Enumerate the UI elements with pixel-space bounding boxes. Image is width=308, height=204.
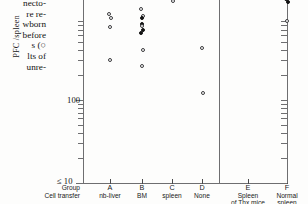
scatter-point [108,58,112,62]
group-sublabel: spleen [253,199,308,204]
scatter-point [139,7,143,11]
scatter-point [109,16,113,20]
right-axis-tick [281,60,287,61]
right-axis-tick [281,118,287,119]
x-axis-group-label-d: DNone [176,184,228,200]
right-axis-line [287,0,288,183]
y-axis-floor-label: ≤ 10 [57,176,72,186]
y-axis-line [83,0,84,183]
y-axis-tick-label: 100 [58,95,80,105]
scatter-point [286,0,290,4]
caption-line: necto- [0,0,46,9]
y-axis-tick [78,158,84,159]
y-axis-tick [78,113,84,114]
figure-panel: necto-re re-wbornbefores (○lts ofunre- P… [0,0,308,204]
scatter-point [200,46,204,50]
y-axis-tick [78,30,84,31]
y-axis-tick [78,42,84,43]
right-axis-tick [281,104,287,105]
y-axis-title: PFC /spleen [12,8,21,66]
y-axis-tick [78,143,84,144]
scatter-point [107,12,111,16]
scatter-point [139,31,143,35]
right-axis-tick [281,143,287,144]
caption-line: before [0,30,46,41]
scatter-point [140,64,144,68]
caption-line: s (○ [0,40,46,51]
right-axis-tick [281,25,287,26]
right-axis-tick [281,42,287,43]
group-letter: F [261,184,308,192]
scatter-point [141,48,145,52]
y-axis-tick [78,50,84,51]
scatter-point [108,25,112,29]
y-axis-tick [78,35,84,36]
right-axis-tick [281,100,287,101]
y-axis-tick [78,133,84,134]
caption-line: lts of [0,51,46,62]
scatter-point [171,0,175,3]
caption-text-fragment: necto-re re-wbornbefores (○lts ofunre- [0,0,46,72]
right-axis-tick [281,75,287,76]
right-axis-tick [281,50,287,51]
caption-line: unre- [0,62,46,73]
scatter-point [285,19,289,23]
x-axis-group-label-f: FNormal [261,184,308,200]
right-axis-tick [281,133,287,134]
y-axis-tick [78,125,84,126]
right-axis-tick [281,113,287,114]
right-axis-tick [281,108,287,109]
y-axis-tick [78,108,84,109]
scatter-point [201,91,205,95]
row-label-cell-transfer: Cell transfer [8,192,80,200]
y-axis-tick [78,60,84,61]
y-axis-tick [78,21,84,22]
y-axis-tick [78,75,84,76]
y-axis-tick [78,25,84,26]
right-axis-tick [281,35,287,36]
right-axis-tick [281,30,287,31]
panel-divider-line [219,0,220,183]
caption-line: re re- [0,9,46,20]
caption-line: wborn [0,19,46,30]
scatter-point [140,16,144,20]
right-axis-tick [281,125,287,126]
group-letter: D [176,184,228,192]
y-axis-tick [78,118,84,119]
right-axis-tick [281,158,287,159]
